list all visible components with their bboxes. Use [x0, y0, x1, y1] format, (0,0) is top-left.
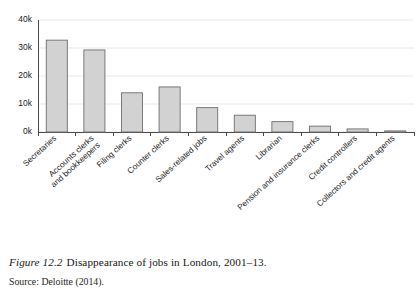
y-axis-tick-label: 20k [18, 70, 32, 80]
bar [309, 126, 330, 132]
bar [46, 40, 67, 132]
figure-caption: Figure 12.2Disappearance of jobs in Lond… [9, 255, 411, 289]
bar-chart: 0k10k20k30k40kSecretariesAccounts clerks… [0, 0, 420, 240]
bar [347, 129, 368, 132]
x-axis-tick-label-line: Travel agents [203, 134, 246, 174]
figure-container: 0k10k20k30k40kSecretariesAccounts clerks… [0, 0, 420, 308]
bar [272, 122, 293, 132]
figure-source: Source: Deloitte (2014). [9, 276, 411, 289]
figure-number: Figure 12.2 [9, 256, 63, 268]
x-axis-tick-label: Collectors and credit agents [315, 134, 396, 209]
x-axis-tick-label: Librarian [254, 133, 284, 161]
x-axis-tick-label: Secretaries [21, 134, 58, 168]
y-axis-tick-label: 0k [23, 126, 33, 136]
y-axis-tick-label: 30k [18, 42, 32, 52]
y-axis-tick-label: 40k [18, 14, 32, 24]
y-axis-tick-label: 10k [18, 98, 32, 108]
bar [234, 115, 255, 132]
x-axis-tick-label: Filing clerks [95, 134, 133, 170]
bar [121, 93, 142, 132]
x-axis-tick-label-line: Collectors and credit agents [315, 134, 396, 209]
caption-line: Figure 12.2Disappearance of jobs in Lond… [9, 255, 411, 270]
x-axis-tick-label: Travel agents [203, 134, 246, 174]
bar [84, 50, 105, 132]
bar [197, 108, 218, 132]
bar [385, 131, 406, 132]
x-axis-tick-label-line: Librarian [254, 133, 284, 161]
x-axis-tick-label-line: Secretaries [21, 134, 58, 168]
x-axis-tick-label-line: Filing clerks [95, 134, 133, 170]
figure-title: Disappearance of jobs in London, 2001–13… [67, 256, 267, 268]
bar [159, 87, 180, 132]
chart-svg: 0k10k20k30k40kSecretariesAccounts clerks… [0, 0, 420, 240]
